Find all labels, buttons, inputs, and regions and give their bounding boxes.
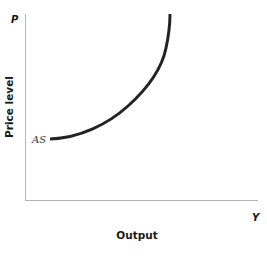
y-axis-title: Price level <box>3 76 15 138</box>
y-axis-symbol: P <box>11 14 19 25</box>
x-axis-title: Output <box>116 229 157 241</box>
aggregate-supply-chart: P Y Price level Output AS <box>0 0 267 256</box>
as-curve-label: AS <box>31 134 46 145</box>
as-curve <box>50 14 170 139</box>
x-axis-symbol: Y <box>252 212 261 223</box>
